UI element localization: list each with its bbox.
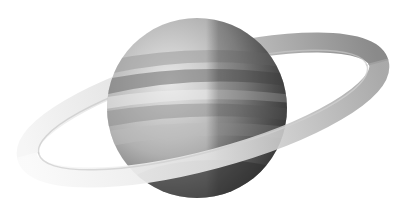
saturn-illustration bbox=[0, 0, 416, 215]
